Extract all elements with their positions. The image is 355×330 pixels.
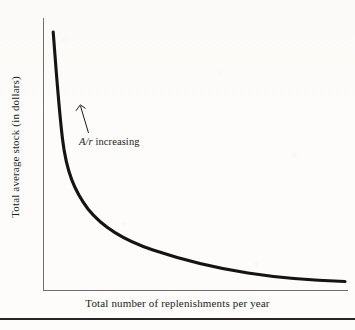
annotation-text: increasing (93, 136, 140, 147)
plot-area (0, 0, 355, 330)
up-left-arrow-shaft (81, 106, 89, 133)
x-axis-label: Total number of replenishments per year (0, 297, 355, 309)
bottom-divider-rule (0, 318, 355, 320)
annotation-variable: A/r (79, 136, 93, 147)
curve-annotation: A/r increasing (79, 136, 140, 147)
figure-container: Total number of replenishments per year … (0, 0, 355, 330)
y-axis-label: Total average stock (in dollars) (9, 62, 21, 232)
total-average-stock-curve (53, 32, 345, 282)
